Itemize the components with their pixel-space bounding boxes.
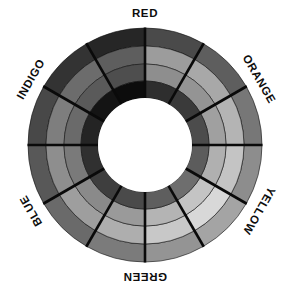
wheel-center-hub [98,98,192,192]
color-wheel-figure: REDORANGEYELLOWGREENBLUEINDIGO [0,0,294,291]
wheel-label-red: RED [132,7,158,19]
wheel-label-green: GREEN [123,271,167,283]
wheel-hub [98,98,192,192]
color-wheel-diagram: REDORANGEYELLOWGREENBLUEINDIGO [0,0,294,291]
